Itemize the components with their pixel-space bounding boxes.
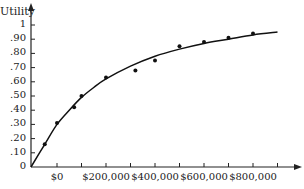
y-tick-label: .30 bbox=[0, 117, 26, 128]
data-point bbox=[153, 59, 157, 63]
utility-chart bbox=[0, 0, 304, 189]
y-tick-label: .80 bbox=[0, 46, 26, 57]
data-point bbox=[202, 40, 206, 44]
data-point bbox=[133, 68, 137, 72]
data-point bbox=[55, 121, 59, 125]
data-point bbox=[178, 44, 182, 48]
data-point bbox=[104, 76, 108, 80]
data-point bbox=[251, 32, 255, 36]
y-tick-label: 0 bbox=[0, 160, 26, 171]
data-point bbox=[43, 142, 47, 146]
y-axis-title: Utility bbox=[0, 5, 35, 18]
x-tick-label: $200,000 bbox=[82, 171, 130, 182]
data-point bbox=[227, 36, 231, 40]
y-tick-label: 1 bbox=[0, 18, 26, 29]
y-tick-label: .90 bbox=[0, 32, 26, 43]
x-axis-arrow-icon bbox=[294, 164, 302, 170]
utility-curve bbox=[31, 32, 278, 167]
data-point bbox=[72, 105, 76, 109]
y-tick-label: .20 bbox=[0, 132, 26, 143]
data-point bbox=[80, 94, 84, 98]
x-tick-label: $400,000 bbox=[131, 171, 179, 182]
x-tick-label: $0 bbox=[51, 171, 64, 182]
y-tick-label: .10 bbox=[0, 146, 26, 157]
y-tick-label: .70 bbox=[0, 61, 26, 72]
y-tick-label: .50 bbox=[0, 89, 26, 100]
x-tick-label: $600,000 bbox=[180, 171, 228, 182]
y-tick-label: .60 bbox=[0, 75, 26, 86]
plot-area bbox=[0, 0, 304, 189]
y-tick-label: .40 bbox=[0, 103, 26, 114]
x-tick-label: $800,000 bbox=[229, 171, 277, 182]
